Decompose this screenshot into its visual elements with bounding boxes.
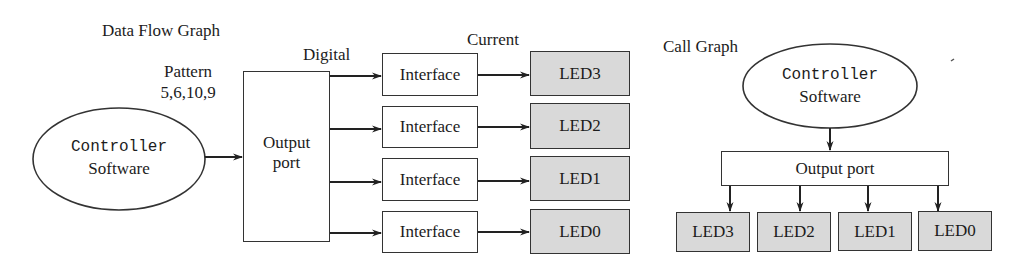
dfg-digital-label: Digital [303,45,350,65]
cg-led1: LED1 [838,212,912,251]
dfg-led0: LED0 [530,209,630,254]
cg-led3: LED3 [676,212,750,252]
dfg-interface-2: Interface [382,106,478,148]
cg-controller-line1: Controller [743,65,917,86]
dfg-interface-3: Interface [382,53,478,96]
dfg-pattern-label: Pattern [148,61,228,82]
dfg-led2: LED2 [530,103,630,149]
dfg-controller-line1: Controller [33,137,205,158]
dfg-led3: LED3 [530,51,630,96]
dfg-current-label: Current [467,30,519,50]
dfg-pattern-values: 5,6,10,9 [148,82,228,103]
dfg-interface-1: Interface [382,158,478,201]
dfg-controller-line2: Software [33,158,205,179]
cg-controller-node: Controller Software [743,65,917,107]
stray-mark [951,59,954,61]
dfg-output-port-box: Output port [243,71,330,242]
cg-led2: LED2 [757,212,831,252]
dfg-led1: LED1 [530,156,630,201]
dfg-output-port-line1: Output [263,133,310,153]
cg-controller-line2: Software [743,86,917,107]
dfg-title: Data Flow Graph [102,21,220,41]
dfg-controller-node: Controller Software [33,137,205,179]
cg-title: Call Graph [663,37,738,57]
cg-output-port-box: Output port [721,151,949,186]
cg-led0: LED0 [918,211,992,251]
dfg-output-port-line2: port [273,153,300,173]
dfg-interface-0: Interface [382,211,478,253]
